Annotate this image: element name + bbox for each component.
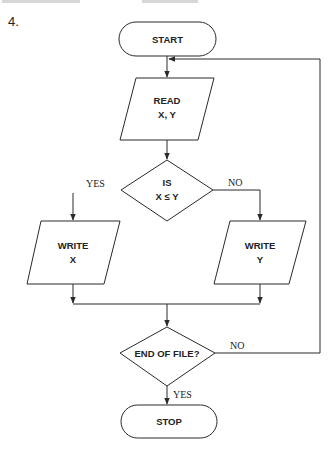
start-label: START (152, 34, 183, 45)
write-y-label-line2: Y (257, 254, 264, 265)
eof-decision-node: END OF FILE? (120, 327, 215, 386)
write-y-node: WRITE Y (214, 221, 306, 284)
compare-label-line1: IS (163, 177, 172, 188)
stop-label: STOP (156, 416, 182, 427)
read-label-line2: X, Y (158, 109, 176, 120)
compare-label-line2: X ≤ Y (156, 191, 180, 202)
compare-no-label: NO (228, 177, 242, 188)
eof-yes-label: YES (173, 389, 192, 400)
write-x-node: WRITE X (27, 221, 120, 284)
flowchart: START READ X, Y IS X ≤ Y YES NO WRITE X … (0, 0, 332, 451)
write-x-label-line2: X (70, 254, 77, 265)
read-node: READ X, Y (120, 78, 214, 140)
stop-node: STOP (121, 405, 217, 438)
write-y-label-line1: WRITE (245, 240, 276, 251)
start-node: START (119, 22, 216, 56)
write-x-label-line1: WRITE (58, 240, 89, 251)
eof-no-label: NO (230, 340, 244, 351)
compare-yes-label: YES (86, 178, 105, 189)
compare-decision-node: IS X ≤ Y (121, 160, 213, 221)
eof-label: END OF FILE? (135, 348, 200, 359)
connector-compare-write-y (213, 190, 260, 220)
read-label-line1: READ (154, 95, 181, 106)
